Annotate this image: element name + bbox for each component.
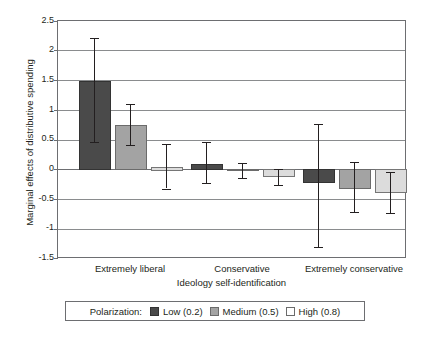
- bar-extremely-liberal-high: [151, 167, 183, 171]
- errorbar-conservative-high: [278, 169, 279, 185]
- errorbar-conservative-low: [206, 142, 207, 183]
- y-tick-label: 0.5: [28, 134, 54, 143]
- y-tickmark: [54, 199, 58, 200]
- errorbar-extremely-conservative-low: [318, 124, 319, 248]
- errorbar-extremely-liberal-high: [166, 144, 167, 188]
- errorbar-cap-bottom: [386, 213, 395, 214]
- y-axis-tick-labels: 2.5 2 1.5 1 0.5 0 -0.5 -1 -1.5: [26, 0, 54, 337]
- y-tickmark: [54, 110, 58, 111]
- y-tick-label: 0: [28, 164, 54, 173]
- errorbar-cap-bottom: [126, 145, 135, 146]
- legend-label-medium: Medium (0.5): [223, 306, 279, 317]
- errorbar-cap-bottom: [202, 183, 211, 184]
- errorbar-cap-top: [162, 144, 171, 145]
- chart-figure: Marginal effects of distributive spendin…: [0, 0, 428, 337]
- y-tick-label: -1: [28, 223, 54, 232]
- errorbar-cap-bottom: [350, 212, 359, 213]
- y-tickmark: [54, 50, 58, 51]
- errorbar-cap-top: [238, 163, 247, 164]
- errorbar-cap-bottom: [90, 142, 99, 143]
- bar-extremely-conservative-low: [303, 169, 335, 183]
- y-tick-label: 1: [28, 105, 54, 114]
- y-tickmark: [54, 229, 58, 230]
- y-tickmark: [54, 258, 58, 259]
- x-tick-label-conservative: Conservative: [214, 263, 269, 274]
- errorbar-cap-bottom: [238, 178, 247, 179]
- bar-conservative-high: [263, 169, 295, 177]
- y-tick-label: -1.5: [28, 253, 54, 262]
- y-tickmark: [54, 140, 58, 141]
- errorbar-extremely-conservative-medium: [354, 162, 355, 212]
- x-tick-label-extremely-conservative: Extremely conservative: [305, 263, 403, 274]
- bar-extremely-liberal-medium: [115, 125, 147, 170]
- y-tickmark: [54, 80, 58, 81]
- chart-legend: Polarization: Low (0.2) Medium (0.5) Hig…: [65, 301, 365, 321]
- y-tickmark: [54, 21, 58, 22]
- gridline: [58, 199, 405, 200]
- errorbar-extremely-liberal-medium: [130, 104, 131, 145]
- bar-extremely-liberal-low: [79, 81, 111, 170]
- bar-conservative-medium: [227, 169, 259, 171]
- legend-item-low[interactable]: Low (0.2): [150, 306, 203, 317]
- gridline: [58, 50, 405, 51]
- errorbar-cap-top: [90, 38, 99, 39]
- legend-label-high: High (0.8): [299, 306, 341, 317]
- bar-extremely-conservative-medium: [339, 169, 371, 189]
- y-tick-label: 1.5: [28, 75, 54, 84]
- legend-swatch-high-icon: [286, 307, 295, 316]
- plot-area: [57, 20, 406, 258]
- errorbar-cap-top: [274, 169, 283, 170]
- legend-label-low: Low (0.2): [163, 306, 203, 317]
- y-tick-label: -0.5: [28, 194, 54, 203]
- legend-item-high[interactable]: High (0.8): [286, 306, 341, 317]
- bar-conservative-low: [191, 164, 223, 170]
- errorbar-cap-top: [386, 172, 395, 173]
- y-tick-label: 2: [28, 45, 54, 54]
- legend-item-medium[interactable]: Medium (0.5): [210, 306, 279, 317]
- legend-swatch-low-icon: [150, 307, 159, 316]
- legend-swatch-medium-icon: [210, 307, 219, 316]
- y-tickmark: [54, 169, 58, 170]
- errorbar-cap-top: [126, 104, 135, 105]
- errorbar-extremely-liberal-low: [94, 38, 95, 142]
- errorbar-cap-top: [350, 162, 359, 163]
- legend-title: Polarization:: [90, 306, 142, 317]
- x-tick-label-extremely-liberal: Extremely liberal: [95, 263, 165, 274]
- x-axis-title: Ideology self-identification: [57, 277, 406, 288]
- errorbar-extremely-conservative-high: [390, 172, 391, 213]
- gridline: [58, 229, 405, 230]
- errorbar-cap-top: [314, 124, 323, 125]
- errorbar-cap-bottom: [162, 189, 171, 190]
- y-tick-label: 2.5: [28, 16, 54, 25]
- errorbar-conservative-medium: [242, 163, 243, 178]
- errorbar-cap-bottom: [274, 185, 283, 186]
- errorbar-cap-bottom: [314, 247, 323, 248]
- errorbar-cap-top: [202, 142, 211, 143]
